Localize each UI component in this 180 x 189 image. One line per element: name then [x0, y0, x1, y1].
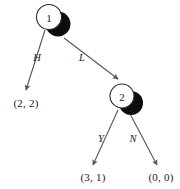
game-tree-diagram: H L Y N 2 1 (2, 2) (3, [0, 0, 180, 189]
edge-y-line [93, 110, 118, 165]
tree-canvas: H L Y N 2 1 (2, 2) (3, [0, 0, 180, 189]
payoff-label-h: (2, 2) [13, 97, 38, 110]
edge-l: L [64, 38, 118, 79]
node-1-label: 1 [46, 12, 52, 24]
edge-h: H [26, 30, 45, 90]
edge-h-label: H [32, 52, 42, 63]
edge-n: N [128, 110, 157, 165]
edge-n-label: N [128, 133, 137, 144]
node-2-label: 2 [119, 91, 125, 103]
edge-l-line [64, 38, 118, 79]
payoff-label-n: (0, 0) [148, 171, 173, 184]
node-2: 2 [110, 84, 143, 115]
node-1: 1 [37, 5, 71, 37]
edge-y: Y [93, 110, 118, 165]
edge-l-label: L [78, 52, 85, 63]
payoff-label-y: (3, 1) [80, 171, 105, 184]
